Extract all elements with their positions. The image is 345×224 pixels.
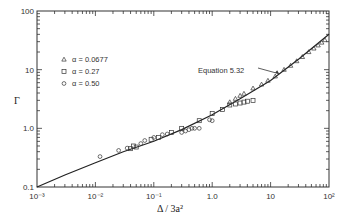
svg-text:1.0: 1.0 <box>23 124 35 133</box>
data-points <box>98 38 327 159</box>
svg-text:10: 10 <box>25 66 34 75</box>
plot-frame <box>37 11 329 187</box>
svg-text:10⁻³: 10⁻³ <box>29 192 45 201</box>
y-axis-label: Γ <box>14 95 20 106</box>
x-axis-label: Δ / 3a² <box>157 203 183 214</box>
svg-text:1.0: 1.0 <box>207 192 219 201</box>
svg-text:10⁻²: 10⁻² <box>88 192 104 201</box>
svg-text:10: 10 <box>266 192 275 201</box>
svg-text:α = 0.0677: α = 0.0677 <box>72 55 108 64</box>
annotation: Equation 5.32 <box>198 66 279 75</box>
y-tick-labels: 0.11.010100 <box>21 7 35 192</box>
x-tick-labels: 10⁻³10⁻²10⁻¹1.01010² <box>29 192 335 201</box>
svg-text:10²: 10² <box>323 192 335 201</box>
svg-text:α = 0.50: α = 0.50 <box>72 79 99 88</box>
log-log-chart: 10⁻³10⁻²10⁻¹1.01010² 0.11.010100 Δ / 3a²… <box>0 0 345 224</box>
svg-text:100: 100 <box>21 7 35 16</box>
svg-text:10⁻¹: 10⁻¹ <box>146 192 162 201</box>
axis-ticks <box>37 11 329 187</box>
svg-text:Equation 5.32: Equation 5.32 <box>198 66 244 75</box>
legend: α = 0.0677α = 0.27α = 0.50 <box>62 55 108 88</box>
svg-text:0.1: 0.1 <box>23 183 35 192</box>
svg-text:α = 0.27: α = 0.27 <box>72 67 99 76</box>
